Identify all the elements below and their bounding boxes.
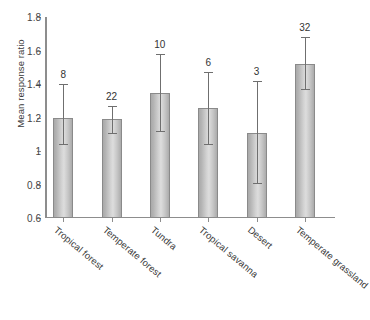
error-bar-cap-lower xyxy=(108,133,117,134)
y-axis-line xyxy=(45,17,47,218)
x-axis-tick-mark xyxy=(257,218,258,222)
error-bar-cap-lower xyxy=(156,131,165,132)
x-axis-tick-mark xyxy=(305,218,306,222)
x-axis-tick-mark xyxy=(63,218,64,222)
sample-size-annotation: 3 xyxy=(237,66,277,77)
error-bar-line xyxy=(160,54,161,131)
sample-size-annotation: 10 xyxy=(140,39,180,50)
error-bar-cap-upper xyxy=(59,84,68,85)
error-bar-cap-upper xyxy=(253,81,262,82)
x-axis-tick-mark xyxy=(208,218,209,222)
error-bar-cap-lower xyxy=(253,183,262,184)
y-axis-tick-label: 1 xyxy=(5,146,41,157)
error-bar-line xyxy=(305,37,306,89)
x-axis-category-label: Tundra xyxy=(149,224,179,252)
y-axis-tick-label: 1.6 xyxy=(5,45,41,56)
error-bar-line xyxy=(257,81,258,183)
y-axis-tick-label: 0.8 xyxy=(5,179,41,190)
x-axis-tick-mark xyxy=(160,218,161,222)
bar xyxy=(102,119,122,218)
sample-size-annotation: 22 xyxy=(92,91,132,102)
error-bar-cap-upper xyxy=(301,37,310,38)
y-axis-tick-label: 1.8 xyxy=(5,12,41,23)
x-axis-line xyxy=(45,217,335,219)
error-bar-cap-lower xyxy=(204,144,213,145)
error-bar-line xyxy=(63,84,64,144)
y-axis-tick-label: 1.2 xyxy=(5,112,41,123)
sample-size-annotation: 32 xyxy=(285,22,325,33)
x-axis-category-label: Tropical forest xyxy=(52,224,106,272)
plot-area: 822106332 xyxy=(45,17,335,218)
error-bar-cap-lower xyxy=(59,144,68,145)
error-bar-cap-upper xyxy=(156,54,165,55)
y-axis-tick-labels: 1.81.61.41.210.80.6 xyxy=(0,17,41,218)
x-axis-category-label: Temperate grassland xyxy=(294,224,370,291)
error-bar-cap-upper xyxy=(108,106,117,107)
error-bar-line xyxy=(208,72,209,144)
y-axis-tick-label: 1.4 xyxy=(5,79,41,90)
sample-size-annotation: 8 xyxy=(43,69,83,80)
error-bar-cap-lower xyxy=(301,89,310,90)
y-axis-tick-label: 0.6 xyxy=(5,213,41,224)
error-bar-line xyxy=(112,106,113,133)
x-axis-tick-mark xyxy=(112,218,113,222)
error-bar-cap-upper xyxy=(204,72,213,73)
sample-size-annotation: 6 xyxy=(188,57,228,68)
x-axis-category-label: Desert xyxy=(245,224,274,251)
